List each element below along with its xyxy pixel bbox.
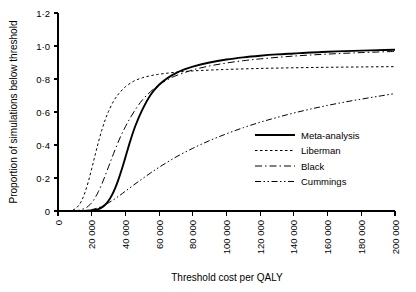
legend-label-meta-analysis: Meta-analysis — [301, 130, 360, 141]
x-tick-label: 0 — [53, 220, 64, 225]
cost-effectiveness-acceptability-chart: 00·20·40·60·81·01·2 020 00040 00060 0008… — [0, 0, 416, 292]
x-tick-label: 140 000 — [288, 220, 299, 254]
x-tick-label: 120 000 — [255, 220, 266, 254]
y-tick-label: 1·2 — [36, 8, 50, 19]
legend: Meta-analysisLibermanBlackCummings — [255, 130, 360, 188]
x-tick-label: 20 000 — [86, 220, 97, 249]
x-axis: 020 00040 00060 00080 000100 000120 0001… — [53, 211, 401, 254]
x-tick-label: 200 000 — [390, 220, 401, 254]
x-tick-label: 60 000 — [154, 220, 165, 249]
figure-container: 00·20·40·60·81·01·2 020 00040 00060 0008… — [0, 0, 416, 292]
x-tick-label: 100 000 — [221, 220, 232, 254]
y-tick-label: 0·2 — [36, 173, 50, 184]
x-tick-label: 180 000 — [356, 220, 367, 254]
legend-label-cummings: Cummings — [301, 176, 347, 187]
y-tick-label: 0·6 — [36, 107, 50, 118]
x-tick-label: 40 000 — [120, 220, 131, 249]
y-tick-label: 0 — [45, 206, 50, 217]
legend-label-black: Black — [301, 161, 324, 172]
y-tick-label: 1·0 — [36, 41, 50, 52]
y-tick-label: 0·4 — [36, 140, 50, 151]
x-tick-label: 160 000 — [322, 220, 333, 254]
legend-label-liberman: Liberman — [301, 145, 341, 156]
y-axis-title: Proportion of simulations below threshol… — [8, 21, 19, 204]
y-axis: 00·20·40·60·81·01·2 — [36, 8, 58, 217]
x-tick-label: 80 000 — [187, 220, 198, 249]
x-axis-title: Threshold cost per QALY — [171, 272, 283, 283]
y-tick-label: 0·8 — [36, 74, 50, 85]
